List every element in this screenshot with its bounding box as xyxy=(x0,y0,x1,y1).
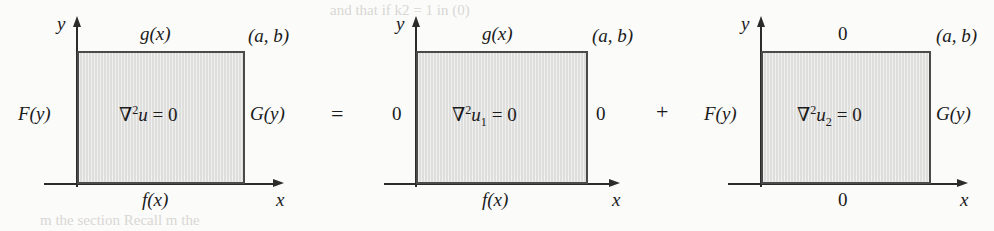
panel-u1: y x g(x) (a, b) 0 0 f(x) ∇2u1 = 0 xyxy=(330,0,630,231)
equation-value: 0 xyxy=(852,104,862,125)
laplace-equation: ∇2u2 = 0 xyxy=(797,104,862,128)
panel-original: y x g(x) (a, b) F(y) G(y) f(x) ∇2u = 0 xyxy=(0,0,300,231)
equation-subscript: 2 xyxy=(826,115,832,129)
figure-dirichlet-decomposition: and that if k2 = 1 in (0) m the section … xyxy=(0,0,994,231)
y-axis-label: y xyxy=(396,14,404,33)
equation-relation: = xyxy=(492,104,503,125)
bottom-boundary-label: 0 xyxy=(838,190,848,209)
laplace-equation: ∇2u = 0 xyxy=(119,104,178,124)
x-axis-label: x xyxy=(276,190,284,209)
equation-value: 0 xyxy=(168,104,178,125)
corner-coordinate-label: (a, b) xyxy=(592,26,633,45)
top-boundary-label: g(x) xyxy=(140,24,171,43)
x-axis-arrow-icon xyxy=(609,179,620,187)
equation-subscript: 1 xyxy=(481,115,487,129)
equation-value: 0 xyxy=(507,104,517,125)
top-boundary-label: 0 xyxy=(838,24,848,43)
x-axis-label: x xyxy=(612,190,620,209)
x-axis-arrow-icon xyxy=(273,179,284,187)
equation-relation: = xyxy=(153,104,164,125)
equation-relation: = xyxy=(837,104,848,125)
corner-coordinate-label: (a, b) xyxy=(936,26,977,45)
nabla-icon: ∇ xyxy=(797,104,810,125)
bottom-boundary-label: f(x) xyxy=(142,190,168,209)
laplace-equation: ∇2u1 = 0 xyxy=(452,104,517,128)
y-axis-label: y xyxy=(741,14,749,33)
left-boundary-label: 0 xyxy=(392,104,402,123)
nabla-icon: ∇ xyxy=(452,104,465,125)
left-boundary-label: F(y) xyxy=(18,104,51,123)
right-boundary-label: G(y) xyxy=(936,104,971,123)
right-boundary-label: 0 xyxy=(596,104,606,123)
left-boundary-label: F(y) xyxy=(704,104,737,123)
equation-variable: u xyxy=(816,104,826,125)
panel-u2: y x 0 (a, b) F(y) G(y) 0 ∇2u2 = 0 xyxy=(660,0,994,231)
x-axis-arrow-icon xyxy=(957,179,968,187)
corner-coordinate-label: (a, b) xyxy=(248,26,289,45)
x-axis-label: x xyxy=(960,190,968,209)
bottom-boundary-label: f(x) xyxy=(482,190,508,209)
nabla-icon: ∇ xyxy=(119,104,132,125)
y-axis-label: y xyxy=(57,14,65,33)
equation-variable: u xyxy=(138,104,148,125)
equation-variable: u xyxy=(471,104,481,125)
top-boundary-label: g(x) xyxy=(482,24,513,43)
right-boundary-label: G(y) xyxy=(250,104,285,123)
